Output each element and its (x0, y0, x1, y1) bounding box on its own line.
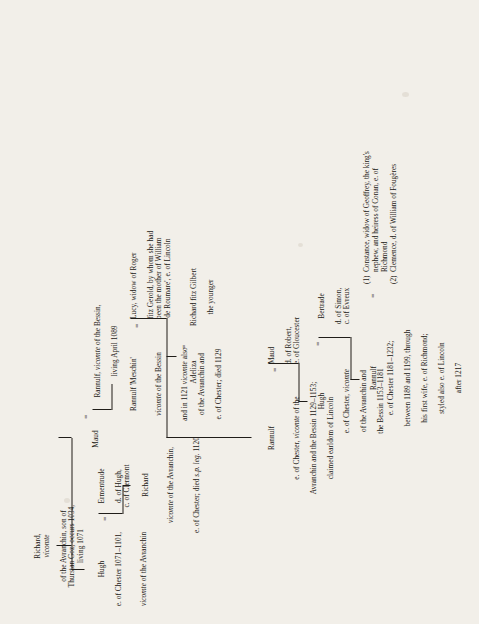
marriage-symbol-adeliza-richard: = (180, 344, 188, 349)
spouse-index: (1) (362, 275, 371, 284)
person-rannulf-meschin: Rannulf 'Meschin' vicomte of the Bessin … (120, 330, 231, 438)
connector-vertical (56, 545, 71, 546)
connector-horizontal (111, 384, 112, 410)
connector-vertical (268, 363, 298, 364)
connector-horizontal (350, 337, 351, 380)
connector-horizontal (298, 363, 299, 402)
connector-vertical (58, 437, 71, 438)
person-lucy: Lucy, widow of Roger fitz Gerold, by who… (120, 191, 180, 319)
person-bertrade: Bertrade d. of Simon, c. of Evreux (308, 274, 359, 338)
person-richard-chester: Richard vicomte of the Avranchin, e. of … (132, 430, 209, 540)
connector-vertical (298, 401, 307, 402)
connector-vertical (71, 569, 84, 570)
connector-vertical (130, 318, 166, 319)
connector-vertical (92, 409, 111, 410)
person-richard-fitz-gilbert: Richard fitz Gilbert the younger (180, 254, 223, 340)
spouse-detail: Clemence, d. of William of Fougères (389, 164, 398, 272)
marriage-symbol-rannulf-lucy: = (133, 323, 141, 328)
person-maud-gloucester: Maud d. of Robert, e. of Gloucester (258, 302, 309, 364)
marriage-symbol-rannulf-wives: = (369, 293, 377, 298)
connector-vertical (122, 485, 130, 486)
spouse-list: (1) Constance, widow of Geoffrey, the ki… (362, 96, 398, 284)
person-adeliza: Adeliza (180, 350, 206, 394)
marriage-symbol-rannulf-maud: = (271, 367, 279, 372)
marriage-symbol-hugh-bertrade: = (314, 341, 322, 346)
marriage-symbol-maud-rannulf: = (82, 414, 90, 419)
person-name: Richard, vicomte (25, 486, 51, 606)
spouse-entry-constance: (1) Constance, widow of Geoffrey, the ki… (362, 96, 388, 284)
spouse-index: (2) (389, 275, 398, 284)
connector-vertical (350, 379, 359, 380)
person-ermentrude: Ermentrude d. of Hugh, c. of Clermont (88, 458, 139, 514)
connector-vertical (98, 513, 122, 514)
connector-vertical (166, 437, 251, 438)
connector-horizontal (122, 486, 123, 514)
person-rannulf-chester-1181: Rannulf e. of Chester 1181–1232; between… (360, 304, 471, 452)
connector-horizontal (71, 438, 72, 570)
paper-speck (298, 243, 303, 247)
connector-horizontal (166, 318, 167, 438)
spouse-entry-clemence: (2) Clemence, d. of William of Fougères (389, 96, 398, 284)
connector-vertical (166, 356, 176, 357)
connector-vertical (318, 337, 350, 338)
person-rannulf-bessin: Rannulf, vicomte of the Bessin, living A… (76, 292, 127, 410)
marriage-symbol-hugh-ermentrude: = (101, 516, 109, 521)
person-richard-avranchin: Richard, vicomte of the Avranchin, son o… (16, 486, 93, 606)
paper-speck (402, 92, 409, 97)
spouse-detail: Constance, widow of Geoffrey, the king's… (362, 151, 388, 272)
person-maud: Maud (82, 420, 108, 458)
paper-speck (64, 498, 70, 503)
